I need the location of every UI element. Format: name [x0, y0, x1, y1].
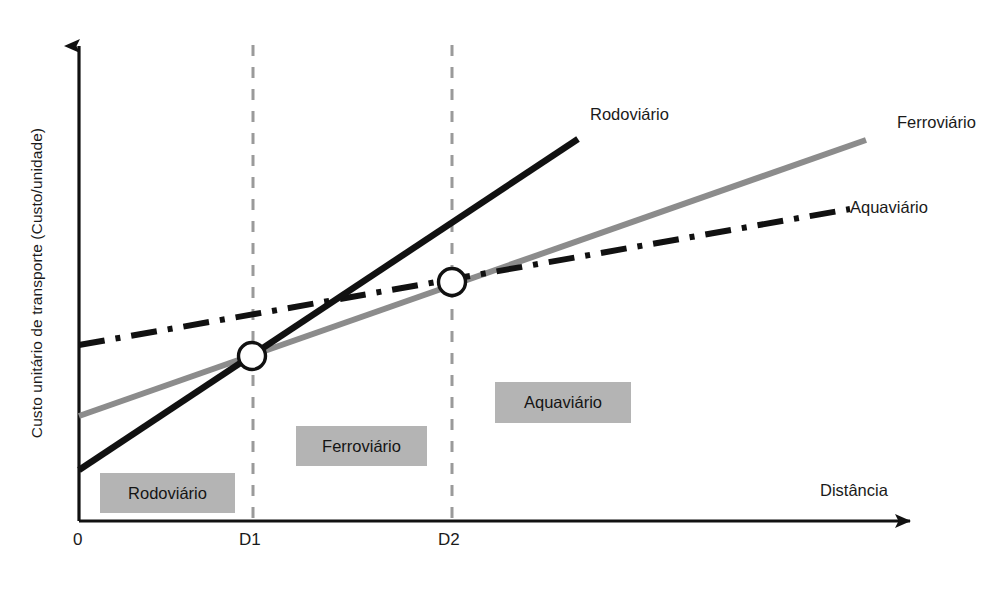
- x-tick-label-d2: D2: [438, 530, 460, 550]
- region-label-aquaviario: Aquaviário: [495, 382, 631, 423]
- x-tick-label-origin: 0: [73, 530, 82, 550]
- intersection-marker-d2: [439, 269, 466, 296]
- x-axis-title: Distância: [820, 481, 888, 500]
- intersection-marker-d1: [239, 343, 266, 370]
- region-label-ferroviario: Ferroviário: [296, 426, 427, 466]
- y-axis-title: Custo unitário de transporte (Custo/unid…: [28, 103, 46, 463]
- x-tick-label-d1: D1: [239, 530, 261, 550]
- series-label-rodoviario: Rodoviário: [590, 105, 669, 124]
- series-label-ferroviario: Ferroviário: [897, 113, 976, 132]
- region-label-rodoviario: Rodoviário: [100, 473, 235, 513]
- transport-cost-chart: Custo unitário de transporte (Custo/unid…: [0, 0, 1004, 597]
- series-label-aquaviario: Aquaviário: [850, 198, 928, 217]
- series-line-ferroviario: [79, 140, 866, 416]
